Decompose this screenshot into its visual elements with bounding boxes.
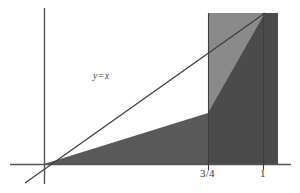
area-under-line (44, 113, 208, 164)
figure-canvas (0, 0, 300, 193)
x-tick-label-one: 1 (260, 167, 266, 179)
line-label-y-equals-x: y=x (93, 70, 110, 81)
math-figure: y=x 3/4 1 (0, 0, 300, 193)
x-tick-label-three-quarters: 3/4 (200, 167, 215, 179)
